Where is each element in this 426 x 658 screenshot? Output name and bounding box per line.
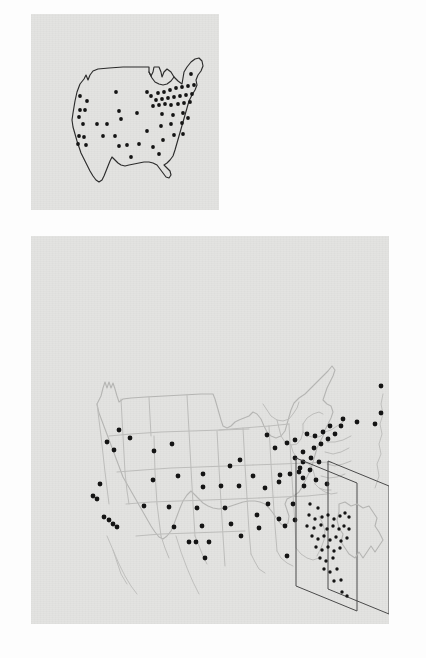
top-map-point-markers [76,72,196,159]
top-map-svg [31,14,219,210]
us-state-boundaries [97,366,351,594]
bottom-panel-us-state-map [31,236,389,624]
stacked-planes-inset [296,458,389,614]
figure-container [0,0,426,658]
bottom-map-svg [31,236,389,624]
bottom-map-point-markers [91,384,384,561]
us-national-outline [72,58,203,182]
atlantic-coastline-fragment [375,394,383,488]
top-panel-us-outline-map [31,14,219,210]
